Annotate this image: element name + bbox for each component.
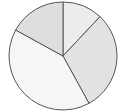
- pie-chart: [0, 0, 122, 112]
